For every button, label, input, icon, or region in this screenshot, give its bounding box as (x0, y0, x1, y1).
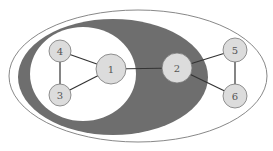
node-label: 6 (232, 91, 238, 102)
node-4: 4 (49, 40, 71, 62)
node-label: 2 (174, 63, 180, 74)
regions-layer (9, 10, 267, 142)
graph-diagram: 123456 (0, 0, 273, 151)
node-label: 5 (232, 45, 238, 56)
node-label: 4 (57, 46, 63, 57)
node-label: 3 (57, 90, 63, 101)
diagram-canvas: 123456 (0, 0, 273, 151)
node-label: 1 (108, 64, 114, 75)
node-6: 6 (223, 84, 247, 108)
node-1: 1 (96, 54, 126, 84)
node-5: 5 (223, 38, 247, 62)
node-2: 2 (162, 53, 192, 83)
node-3: 3 (49, 84, 71, 106)
